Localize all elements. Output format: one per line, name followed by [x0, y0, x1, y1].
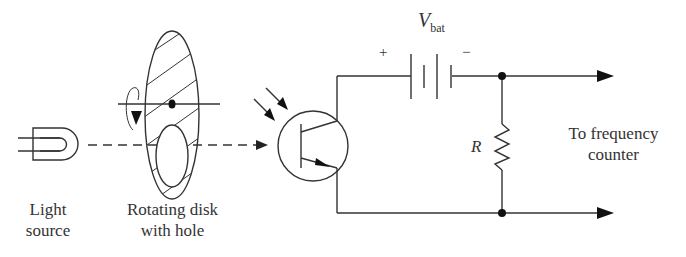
junction-dot-bottom — [498, 209, 506, 217]
resistor-label: R — [471, 136, 481, 157]
battery-voltage-label: Vbat — [418, 10, 445, 34]
phototransistor-icon — [254, 88, 348, 181]
disk-label-line2: with hole — [115, 220, 230, 241]
light-source-label: Light source — [18, 199, 78, 241]
disk-label: Rotating disk with hole — [115, 199, 230, 241]
output-arrow-bottom-icon — [597, 207, 614, 219]
output-label-line1: To frequency — [556, 123, 671, 144]
battery-plus-label: + — [379, 42, 387, 63]
resistor-icon — [495, 124, 509, 170]
light-source-label-line1: Light — [18, 199, 78, 220]
junction-dot-top — [498, 72, 506, 80]
output-label-line2: counter — [556, 144, 671, 165]
disk-label-line1: Rotating disk — [115, 199, 230, 220]
light-source-label-line2: source — [18, 220, 78, 241]
battery-icon — [411, 54, 451, 99]
battery-v-symbol: V — [418, 9, 430, 31]
battery-minus-label: − — [462, 42, 470, 63]
light-source-icon — [18, 128, 78, 160]
battery-subscript: bat — [430, 21, 445, 35]
output-arrow-top-icon — [597, 70, 614, 82]
output-label: To frequency counter — [556, 123, 671, 165]
